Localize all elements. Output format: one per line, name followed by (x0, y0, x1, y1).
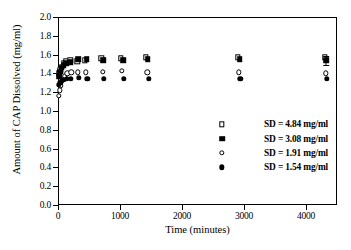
legend-marker-filled-square-icon (219, 136, 225, 142)
y-tick-label: 2.0 (40, 12, 51, 22)
y-tick-label: 0.2 (40, 181, 51, 191)
data-point (68, 59, 74, 65)
data-point (76, 75, 81, 80)
data-point (323, 71, 328, 76)
y-tick-label: 1.8 (40, 31, 51, 41)
data-point (236, 70, 241, 75)
y-tick (53, 149, 58, 150)
y-tick-label: 0.8 (40, 125, 51, 135)
y-axis-title: Amount of CAP Dissolved (mg/ml) (11, 0, 22, 200)
legend-marker-open-square-icon (219, 121, 224, 126)
legend-label: SD = 4.84 mg/ml (264, 119, 328, 129)
y-tick-label: 1.2 (40, 87, 51, 97)
data-point (324, 76, 329, 81)
y-tick-label: 0.0 (40, 200, 51, 210)
y-tick (53, 36, 58, 37)
data-point (121, 76, 126, 81)
data-point (57, 88, 62, 93)
y-tick (53, 167, 58, 168)
data-point (238, 76, 243, 81)
x-tick-label: 0 (56, 211, 61, 221)
y-tick-label: 0.6 (40, 144, 51, 154)
x-axis-title: Time (minutes) (58, 224, 337, 235)
data-point (146, 76, 151, 81)
data-point (145, 57, 151, 63)
x-tick-label: 3000 (235, 211, 253, 221)
data-point (100, 57, 106, 63)
x-tick (244, 205, 245, 210)
plot-area: 0.00.20.40.60.81.01.21.41.61.82.0 010002… (58, 17, 337, 205)
y-tick (53, 17, 58, 18)
y-tick-label: 0.4 (40, 162, 51, 172)
data-point (101, 76, 106, 81)
x-tick-label: 4000 (297, 211, 315, 221)
x-tick (306, 205, 307, 210)
data-point (76, 57, 82, 63)
data-point (145, 70, 150, 75)
data-point (120, 57, 126, 63)
data-point (75, 70, 80, 75)
figure: 0.00.20.40.60.81.01.21.41.61.82.0 010002… (0, 0, 351, 250)
y-tick-label: 1.6 (40, 50, 51, 60)
legend-label: SD = 1.91 mg/ml (264, 148, 328, 158)
data-point (84, 57, 90, 63)
data-point (324, 57, 330, 63)
error-bar-cap (324, 65, 330, 66)
x-tick (120, 205, 121, 210)
data-point (84, 76, 89, 81)
x-tick-label: 2000 (173, 211, 191, 221)
legend-label: SD = 1.54 mg/ml (264, 162, 328, 172)
data-point (68, 76, 73, 81)
y-tick (53, 111, 58, 112)
data-point (119, 68, 124, 73)
data-point (237, 57, 243, 63)
error-bar-cap (324, 56, 330, 57)
x-tick-label: 1000 (111, 211, 129, 221)
y-tick-label: 1.4 (40, 68, 51, 78)
y-tick-label: 1.0 (40, 106, 51, 116)
y-tick (53, 130, 58, 131)
y-tick (53, 186, 58, 187)
data-point (69, 70, 74, 75)
y-tick (53, 55, 58, 56)
data-point (83, 70, 88, 75)
data-point (56, 93, 61, 98)
legend-label: SD = 3.08 mg/ml (264, 134, 328, 144)
x-tick (58, 205, 59, 210)
data-point (100, 69, 105, 74)
x-tick (182, 205, 183, 210)
